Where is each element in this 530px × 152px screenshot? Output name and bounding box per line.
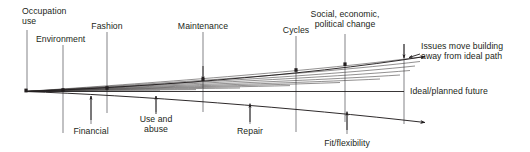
tick-lines-below: [91, 96, 347, 134]
label-occupation-use: Occupation use: [22, 6, 66, 26]
label-cycles: Cycles: [283, 25, 309, 35]
label-fit-flexibility: Fit/flexibility: [324, 138, 370, 148]
issues-annotation-leader-line: [409, 54, 420, 58]
label-use-and-abuse: Use and abuse: [140, 114, 173, 134]
node-marker: [294, 68, 297, 72]
node-marker: [201, 77, 204, 81]
node-marker: [105, 86, 108, 90]
fan-line-bundle: [25, 57, 425, 92]
annotation-ideal-planned-future: Ideal/planned future: [410, 86, 488, 96]
node-marker: [343, 62, 346, 66]
annotation-issues-move-building-line2: away from ideal path: [421, 51, 502, 61]
annotation-issues-move-building-line1: Issues move building: [421, 41, 503, 51]
label-financial: Financial: [73, 126, 108, 136]
label-repair: Repair: [237, 126, 263, 136]
fan-divergence-diagram: Occupation use Environment Fashion Maint…: [0, 0, 530, 152]
node-marker: [61, 88, 64, 92]
node-marker: [24, 89, 27, 93]
lower-deflection-path: [25, 92, 425, 123]
label-maintenance: Maintenance: [178, 21, 228, 31]
label-fashion: Fashion: [91, 21, 122, 31]
label-social-economic-political-change: Social, economic, political change: [311, 9, 380, 29]
annotation-leader: [409, 54, 420, 58]
label-environment: Environment: [36, 34, 85, 44]
